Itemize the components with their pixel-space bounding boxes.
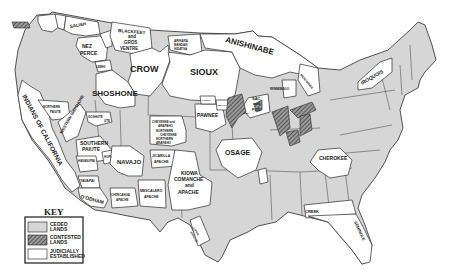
key-label-ceded-2: LANDS [50, 226, 68, 232]
label-sac-fox-3: FOX [252, 107, 261, 112]
key-label-judicial-2: ESTABLISHED [50, 253, 85, 259]
label-arikara-3: HIDATSA [174, 47, 188, 51]
label-blackfeet-3: GROS [124, 40, 137, 45]
key-swatch-judicial [28, 249, 47, 259]
label-cherokee: CHEROKEE [319, 155, 348, 161]
label-jicarilla-1: JICARILLA [152, 154, 171, 158]
region-mescalero [138, 180, 166, 208]
label-hopi: HOPI [104, 155, 112, 159]
label-yavapai: YAVAPAI [80, 179, 94, 183]
label-ponca: PONCA [202, 99, 211, 102]
label-shoshone: SHOSHONE [92, 89, 138, 98]
label-creek: CREEK [305, 209, 319, 214]
label-cheyenne-arapaho-2: ARAPAHO [158, 124, 174, 128]
label-ute: UTE [104, 119, 110, 123]
contested-7 [12, 22, 30, 28]
label-northern-arapaho-2: ARAPAHO [156, 141, 172, 145]
indian-land-claims-map: SALISH NEZ PERCE BLACKFEET and GROS VENT… [0, 0, 454, 277]
label-blackfeet-4: VENTRE [120, 46, 138, 51]
key-swatch-contested [28, 235, 47, 245]
label-lemhi: LEMHI [96, 65, 105, 69]
label-omaha: OMAHA [217, 104, 227, 107]
label-chiricahua-1: CHIRICAHUA [111, 193, 131, 197]
label-winnebago: WINNEBAGO [270, 87, 290, 91]
label-chiricahua-2: APACHE [116, 198, 128, 202]
label-pawnee: PAWNEE [197, 112, 219, 118]
label-jicarilla-2: APACHE [154, 160, 169, 164]
label-nez-perce-1: NEZ [82, 43, 92, 49]
label-navajo: NAVAJO [117, 159, 141, 165]
label-sac-fox-2: and [253, 101, 261, 106]
label-nez-perce-2: PERCE [80, 50, 98, 56]
label-crow: CROW [130, 64, 159, 74]
key-title: KEY [44, 207, 64, 217]
key-label-contested-2: LANDS [50, 239, 68, 245]
region-small-island [258, 168, 268, 184]
map-key: KEY CEDED LANDS CONTESTED LANDS JUDICIAL… [25, 207, 85, 263]
label-goshute: GOSHUTE [88, 115, 103, 119]
key-swatch-ceded [28, 222, 47, 232]
label-southern-paiute-2: PAIUTE [82, 146, 101, 152]
label-blackfeet-2: and [128, 34, 136, 39]
label-mescalero-2: APACHE [144, 195, 159, 199]
label-iowa: IOWA [243, 112, 250, 115]
label-northern-paiute-1: NORTHERN [43, 105, 60, 109]
label-osage: OSAGE [225, 149, 251, 156]
label-kiowa-4: APACHE [178, 189, 199, 195]
label-kiowa-3: and [185, 182, 194, 188]
label-sioux: SIOUX [190, 67, 218, 77]
label-northern-paiute-2: PAIUTE [50, 110, 61, 114]
label-havasupai: HAVASUPAI [78, 159, 95, 163]
label-mescalero-1: MESCALERO [140, 189, 163, 193]
